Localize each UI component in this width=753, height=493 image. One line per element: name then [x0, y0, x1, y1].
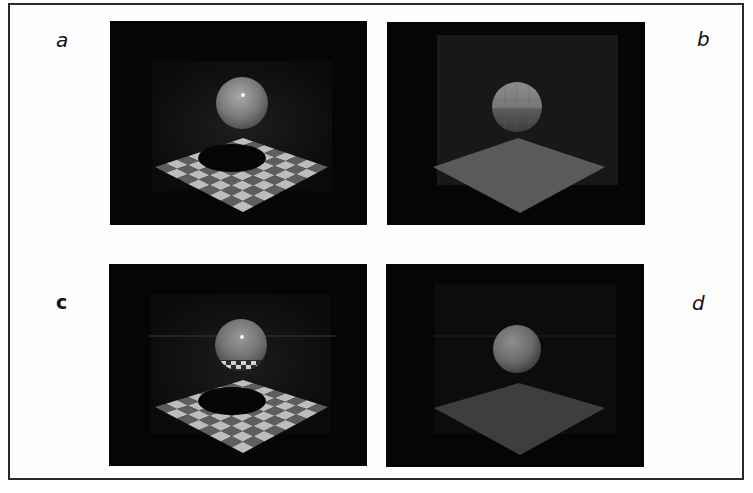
panel-label-a: a: [56, 30, 68, 50]
panel-b-image: [387, 22, 645, 225]
panel-label-c: c: [56, 293, 67, 312]
sphere-shadow: [198, 387, 266, 415]
panel-d-image: [386, 264, 644, 467]
panel-d-render: [386, 264, 644, 467]
panel-label-d: d: [692, 293, 705, 313]
smooth-sphere: [493, 325, 541, 373]
panel-label-b: b: [697, 29, 710, 49]
panel-c-image: [109, 264, 367, 466]
panel-a-render: [110, 21, 367, 225]
sphere-shadow: [198, 144, 266, 172]
panel-a-image: [110, 21, 367, 225]
panel-b-render: [387, 22, 645, 225]
sphere: [216, 77, 268, 129]
panel-c-render: [109, 264, 367, 466]
specular-highlight: [240, 335, 244, 339]
specular-highlight: [241, 93, 245, 97]
